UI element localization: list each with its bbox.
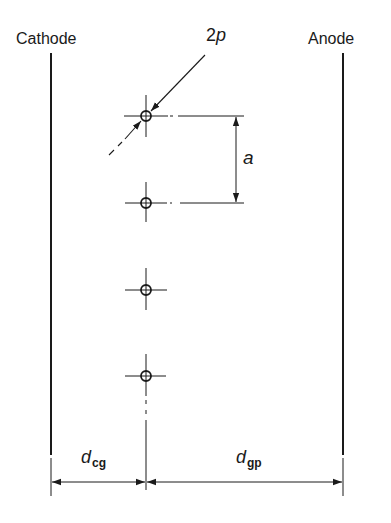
diameter-leader-upper (151, 55, 205, 111)
anode-label: Anode (308, 30, 354, 48)
grid-wire-3 (125, 285, 167, 295)
cathode-label: Cathode (16, 30, 77, 48)
cathode-grid-distance-base: d (81, 447, 91, 467)
grid-wire-2 (125, 198, 167, 208)
electrode-grid-diagram: Cathode Anode 2p a dcg dgp (0, 0, 391, 523)
grid-wire-1 (124, 111, 168, 121)
diameter-leader-lower (109, 121, 141, 155)
pitch-extension-lines (170, 116, 244, 203)
wire-diameter-coefficient: 2 (206, 25, 216, 45)
pitch-label: a (243, 147, 254, 169)
wire-diameter-label: 2p (206, 25, 226, 46)
diagram-canvas (0, 0, 391, 523)
grid-plate-distance-base: d (236, 447, 246, 467)
wire-diameter-variable: p (216, 25, 226, 45)
grid-plate-distance-label: dgp (236, 447, 262, 468)
cathode-grid-distance-subscript: cg (92, 456, 106, 470)
cathode-grid-distance-label: dcg (81, 447, 106, 468)
grid-wire-4 (125, 371, 166, 381)
grid-plate-distance-subscript: gp (247, 456, 262, 470)
